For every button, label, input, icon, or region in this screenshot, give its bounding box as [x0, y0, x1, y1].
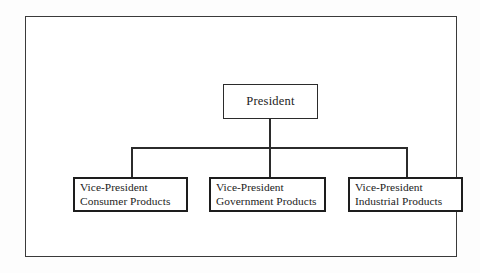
connector-horizontal-bus [131, 147, 408, 149]
page-canvas: President Vice-President Consumer Produc… [0, 0, 480, 273]
node-president[interactable]: President [223, 84, 318, 119]
node-vp-consumer-title: Vice-President [80, 181, 148, 195]
node-vp-industrial-products[interactable]: Vice-President Industrial Products [348, 177, 463, 212]
connector-bus-to-vp-consumer [131, 147, 133, 178]
node-vp-industrial-division: Industrial Products [355, 195, 442, 209]
connector-bus-to-vp-industrial [406, 147, 408, 178]
node-vp-consumer-products[interactable]: Vice-President Consumer Products [73, 177, 188, 212]
diagram-frame: President Vice-President Consumer Produc… [25, 16, 457, 257]
node-president-label: President [246, 94, 294, 109]
node-vp-industrial-title: Vice-President [355, 181, 423, 195]
node-vp-government-title: Vice-President [216, 181, 284, 195]
node-vp-consumer-division: Consumer Products [80, 195, 170, 209]
node-vp-government-products[interactable]: Vice-President Government Products [209, 177, 326, 212]
node-vp-government-division: Government Products [216, 195, 317, 209]
